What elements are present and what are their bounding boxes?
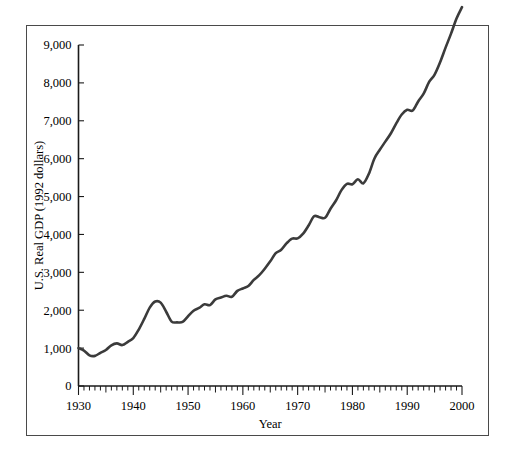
y-axis-tick-label: 6,000 bbox=[43, 152, 71, 166]
x-axis-tick-label: 1960 bbox=[230, 399, 255, 413]
y-axis-tick-label: 3,000 bbox=[43, 266, 71, 280]
y-axis-tick-label: 1,000 bbox=[43, 342, 71, 356]
x-axis-tick-label: 1990 bbox=[395, 399, 420, 413]
y-axis-tick-label: 8,000 bbox=[43, 76, 71, 90]
y-axis-title-text: U.S. Real GDP (1992 dollars) bbox=[32, 141, 46, 291]
y-axis-tick-label: 5,000 bbox=[43, 190, 71, 204]
y-axis-tick-label: 7,000 bbox=[43, 114, 71, 128]
figure-container: 01,0002,0003,0004,0005,0006,0007,0008,00… bbox=[0, 0, 512, 456]
gdp-line-chart: 01,0002,0003,0004,0005,0006,0007,0008,00… bbox=[0, 0, 512, 456]
x-axis-tick-label: 1970 bbox=[285, 399, 310, 413]
y-axis-tick-label: 9,000 bbox=[43, 38, 71, 52]
x-axis-tick-label: 2000 bbox=[450, 399, 475, 413]
x-axis-tick-label: 1930 bbox=[66, 399, 91, 413]
x-axis-tick-label: 1940 bbox=[121, 399, 146, 413]
chart-axes bbox=[79, 45, 463, 395]
chart-labels: 01,0002,0003,0004,0005,0006,0007,0008,00… bbox=[32, 38, 475, 431]
x-axis-title-text: Year bbox=[259, 417, 283, 431]
x-axis-tick-label: 1950 bbox=[176, 399, 201, 413]
y-axis-tick-label: 0 bbox=[65, 379, 71, 393]
y-axis-tick-label: 4,000 bbox=[43, 228, 71, 242]
x-axis-tick-label: 1980 bbox=[340, 399, 365, 413]
y-axis-tick-label: 2,000 bbox=[43, 304, 71, 318]
chart-series bbox=[79, 7, 463, 356]
gdp-data-line bbox=[79, 7, 463, 356]
